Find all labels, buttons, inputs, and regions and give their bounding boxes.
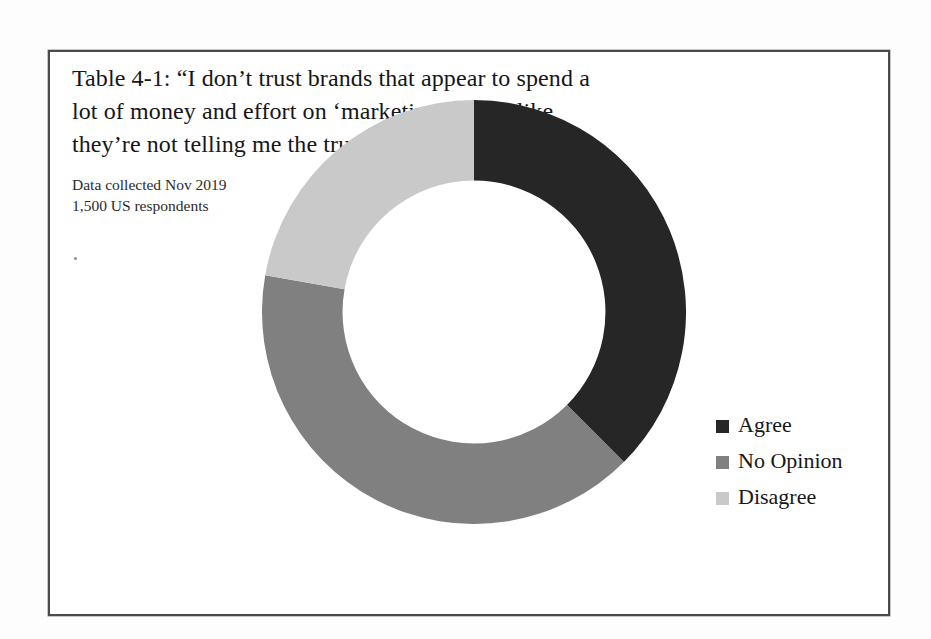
figure-frame: Table 4-1: “I don’t trust brands that ap… [48, 50, 890, 616]
legend-item-agree[interactable]: Agree [716, 407, 876, 443]
donut-slice-agree[interactable] [474, 100, 686, 462]
legend-item-no-opinion[interactable]: No Opinion [716, 443, 876, 479]
legend-label-agree: Agree [738, 412, 792, 438]
donut-slice-group [262, 100, 686, 524]
legend-swatch-disagree [716, 492, 729, 505]
chart-legend: Agree No Opinion Disagree [716, 407, 876, 515]
legend-label-disagree: Disagree [738, 484, 816, 510]
donut-slice-disagree[interactable] [265, 100, 474, 289]
legend-swatch-no-opinion [716, 456, 729, 469]
scan-speck [74, 257, 77, 260]
legend-item-disagree[interactable]: Disagree [716, 479, 876, 515]
donut-chart [262, 100, 686, 524]
legend-swatch-agree [716, 420, 729, 433]
donut-chart-svg [262, 100, 686, 524]
legend-label-no-opinion: No Opinion [738, 448, 843, 474]
donut-slice-no-opinion[interactable] [262, 275, 624, 524]
